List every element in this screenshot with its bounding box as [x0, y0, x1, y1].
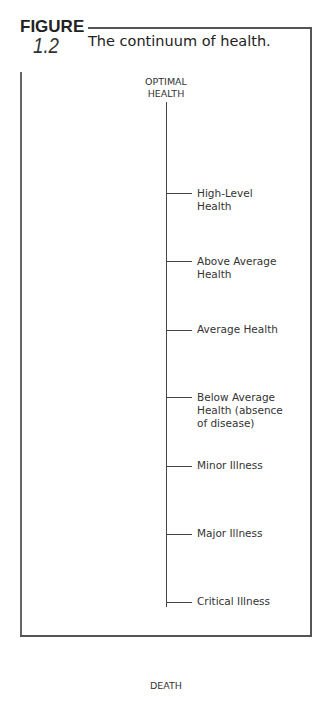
tick-critical-illness: [166, 602, 192, 603]
frame-bottom-border: [20, 635, 312, 637]
level-label-above-average: Above Average Health: [197, 255, 297, 281]
level-label-average: Average Health: [197, 323, 307, 336]
top-end-label-line1: OPTIMAL: [126, 76, 206, 88]
frame-right-border: [310, 27, 312, 637]
continuum-axis: [166, 102, 167, 607]
bottom-end-label: DEATH: [126, 680, 206, 692]
top-end-label-line2: HEALTH: [126, 88, 206, 100]
tick-above-average: [166, 261, 192, 262]
figure-number: 1.2: [33, 33, 59, 59]
level-label-below-average: Below Average Health (absence of disease…: [197, 391, 287, 430]
tick-minor-illness: [166, 466, 192, 467]
top-end-label: OPTIMAL HEALTH: [126, 76, 206, 100]
level-label-critical-illness: Critical Illness: [197, 595, 307, 608]
frame-left-border: [20, 72, 22, 637]
tick-average: [166, 330, 192, 331]
level-label-major-illness: Major Illness: [197, 527, 307, 540]
level-label-high-level: High-Level Health: [197, 187, 267, 213]
tick-high-level: [166, 193, 192, 194]
tick-major-illness: [166, 534, 192, 535]
level-label-minor-illness: Minor Illness: [197, 459, 307, 472]
figure-caption: The continuum of health.: [88, 33, 271, 49]
tick-below-average: [166, 397, 192, 398]
frame-top-rule: [88, 27, 311, 29]
